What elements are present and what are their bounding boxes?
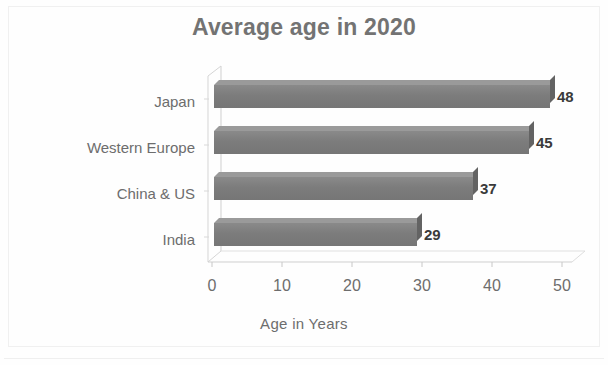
bar-western-europe[interactable] xyxy=(214,131,529,154)
data-label-western-europe: 45 xyxy=(536,135,553,151)
bar-japan[interactable] xyxy=(214,85,550,108)
bar-side-face xyxy=(417,213,422,241)
data-label-india: 29 xyxy=(424,227,441,243)
plot-area: Japan Western Europe China & US India xyxy=(0,0,608,365)
xtick-label-0: 0 xyxy=(192,277,232,295)
xtick-label-20: 20 xyxy=(332,277,372,295)
bar-china-us[interactable] xyxy=(214,177,473,200)
bar-india[interactable] xyxy=(214,223,417,246)
data-label-china-us: 37 xyxy=(480,181,497,197)
bar-side-face xyxy=(473,167,478,195)
bar-chart: Average age in 2020 xyxy=(0,0,608,365)
x-axis-title: Age in Years xyxy=(0,315,608,332)
xtick-label-50: 50 xyxy=(542,277,582,295)
bar-front-face xyxy=(214,177,473,200)
xtick-label-10: 10 xyxy=(262,277,302,295)
data-label-japan: 48 xyxy=(557,89,574,105)
bar-side-face xyxy=(550,75,555,103)
bars-layer xyxy=(0,0,608,365)
xtick-label-30: 30 xyxy=(402,277,442,295)
bar-front-face xyxy=(214,85,550,108)
bar-front-face xyxy=(214,131,529,154)
bar-side-face xyxy=(529,121,534,149)
xtick-label-40: 40 xyxy=(472,277,512,295)
bar-front-face xyxy=(214,223,417,246)
